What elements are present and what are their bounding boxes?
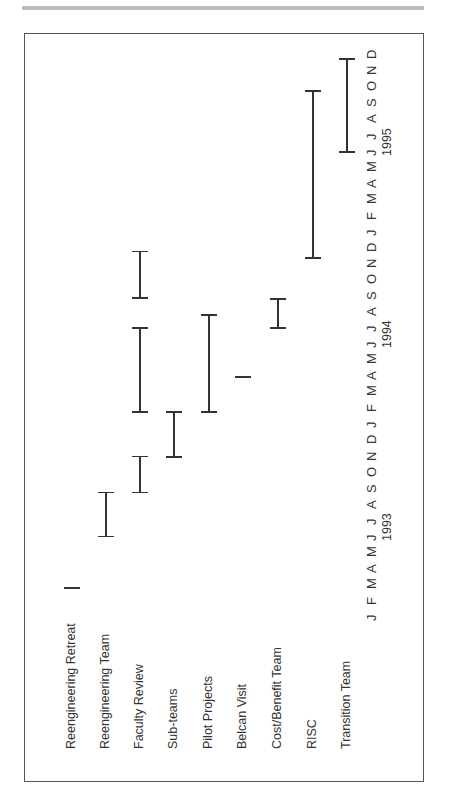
month-tick-label: N bbox=[364, 451, 379, 460]
month-tick-label: A bbox=[364, 179, 379, 188]
month-tick-label: A bbox=[364, 500, 379, 509]
month-tick-label: F bbox=[364, 597, 379, 605]
duration-bar bbox=[346, 59, 348, 152]
duration-bar bbox=[139, 456, 141, 492]
month-tick-label: A bbox=[364, 564, 379, 573]
month-tick-label: M bbox=[364, 193, 379, 204]
month-tick-label: M bbox=[364, 578, 379, 589]
task-label: Cost/Benefit Team bbox=[270, 647, 284, 749]
month-tick-label: J bbox=[364, 534, 379, 541]
month-tick-label: O bbox=[364, 274, 379, 284]
bar-start-cap bbox=[305, 257, 321, 259]
bar-end-cap bbox=[132, 456, 148, 458]
month-tick-label: J bbox=[364, 422, 379, 429]
month-tick-label: J bbox=[364, 342, 379, 349]
bar-end-cap bbox=[201, 314, 217, 316]
bar-start-cap bbox=[166, 456, 182, 458]
month-tick-label: M bbox=[364, 385, 379, 396]
duration-bar bbox=[208, 315, 210, 412]
month-tick-label: J bbox=[364, 326, 379, 333]
task-label: Faculty Review bbox=[132, 664, 146, 749]
task-label: Belcan Visit bbox=[235, 684, 249, 749]
header-rule bbox=[22, 6, 424, 10]
month-tick-label: D bbox=[364, 242, 379, 251]
month-tick-label: J bbox=[364, 615, 379, 622]
month-tick-label: J bbox=[364, 149, 379, 156]
duration-bar bbox=[139, 328, 141, 412]
month-tick-label: J bbox=[364, 133, 379, 140]
duration-bar bbox=[312, 91, 314, 258]
task-label: Transition Team bbox=[339, 661, 353, 749]
bar-start-cap bbox=[132, 492, 148, 494]
bar-start-cap bbox=[132, 411, 148, 413]
bar-end-cap bbox=[166, 411, 182, 413]
year-label: 1993 bbox=[380, 513, 394, 541]
duration-bar bbox=[277, 299, 279, 328]
bar-start-cap bbox=[132, 297, 148, 299]
task-label: Pilot Projects bbox=[201, 676, 215, 749]
month-tick-label: A bbox=[364, 307, 379, 316]
bar-end-cap bbox=[339, 58, 355, 60]
bar-end-cap bbox=[132, 327, 148, 329]
milestone-marker bbox=[235, 376, 251, 378]
month-tick-label: D bbox=[364, 435, 379, 444]
year-label: 1994 bbox=[380, 320, 394, 348]
task-label: Reengineering Retreat bbox=[64, 623, 78, 749]
month-tick-label: F bbox=[364, 404, 379, 412]
bar-end-cap bbox=[98, 492, 114, 494]
month-tick-label: M bbox=[364, 353, 379, 364]
month-tick-label: S bbox=[364, 484, 379, 493]
month-tick-label: A bbox=[364, 372, 379, 381]
bar-start-cap bbox=[339, 151, 355, 153]
year-label: 1995 bbox=[380, 128, 394, 156]
month-tick-label: N bbox=[364, 66, 379, 75]
month-tick-label: S bbox=[364, 291, 379, 300]
month-tick-label: D bbox=[364, 50, 379, 59]
month-tick-label: N bbox=[364, 259, 379, 268]
month-tick-label: F bbox=[364, 212, 379, 220]
duration-bar bbox=[105, 492, 107, 536]
bar-start-cap bbox=[270, 327, 286, 329]
bar-end-cap bbox=[305, 90, 321, 92]
month-tick-label: A bbox=[364, 115, 379, 124]
month-tick-label: J bbox=[364, 229, 379, 236]
month-tick-label: S bbox=[364, 99, 379, 108]
month-tick-label: O bbox=[364, 466, 379, 476]
task-label: RISC bbox=[305, 719, 319, 749]
duration-bar bbox=[139, 252, 141, 299]
duration-bar bbox=[173, 412, 175, 457]
month-tick-label: J bbox=[364, 518, 379, 525]
task-label: Reengineering Team bbox=[98, 634, 112, 749]
bar-end-cap bbox=[270, 298, 286, 300]
month-tick-label: M bbox=[364, 546, 379, 557]
bar-start-cap bbox=[201, 411, 217, 413]
bar-start-cap bbox=[98, 536, 114, 538]
month-tick-label: M bbox=[364, 161, 379, 172]
month-tick-label: O bbox=[364, 81, 379, 91]
bar-end-cap bbox=[132, 251, 148, 253]
milestone-marker bbox=[64, 587, 80, 589]
task-label: Sub-teams bbox=[166, 689, 180, 749]
